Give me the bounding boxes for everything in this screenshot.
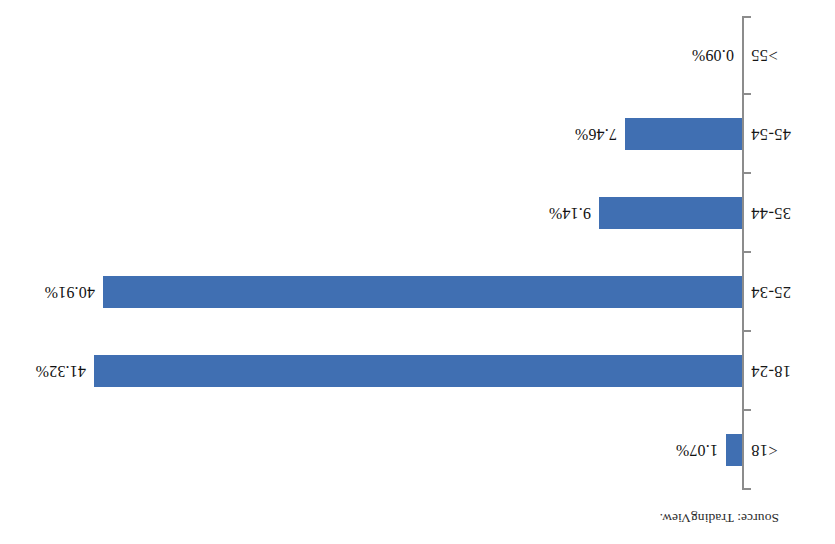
bar-rows: <18 1.07% 18-24 41.32% 25-34 40.91% [0, 16, 835, 490]
bar-row: 18-24 41.32% [0, 332, 835, 411]
source-caption: Source: TradingView. [659, 510, 779, 526]
bar-segment[interactable] [625, 118, 742, 150]
axis-tick [742, 251, 751, 253]
bar-value-label: 9.14% [549, 197, 591, 229]
bar-value-label: 0.09% [692, 39, 734, 71]
category-label: >55 [751, 16, 829, 95]
bar-segment[interactable] [94, 355, 742, 387]
axis-tick [742, 172, 751, 174]
bar-segment[interactable] [726, 434, 742, 466]
bar-row: <18 1.07% [0, 411, 835, 490]
bar-row: 45-54 7.46% [0, 95, 835, 174]
bar-segment[interactable] [599, 197, 742, 229]
category-label: <18 [751, 411, 829, 490]
bar-value-label: 41.32% [35, 355, 86, 387]
bar-value-label: 1.07% [676, 434, 718, 466]
axis-tick [742, 330, 751, 332]
bar-segment[interactable] [103, 276, 742, 308]
bar-row: 35-44 9.14% [0, 174, 835, 253]
bar-segment[interactable] [741, 39, 742, 71]
axis-tick [742, 93, 751, 95]
bar-row: >55 0.09% [0, 16, 835, 95]
rotated-figure-wrapper: Source: TradingView. <18 1.07% 18-24 41.… [0, 0, 835, 544]
category-label: 45-54 [751, 95, 829, 174]
category-label: 25-34 [751, 253, 829, 332]
bar-value-label: 7.46% [575, 118, 617, 150]
bar-value-label: 40.91% [44, 276, 95, 308]
category-label: 35-44 [751, 174, 829, 253]
axis-tick [742, 409, 751, 411]
bar-chart: Source: TradingView. <18 1.07% 18-24 41.… [0, 0, 835, 544]
bar-row: 25-34 40.91% [0, 253, 835, 332]
axis-tick [742, 488, 751, 490]
category-label: 18-24 [751, 332, 829, 411]
